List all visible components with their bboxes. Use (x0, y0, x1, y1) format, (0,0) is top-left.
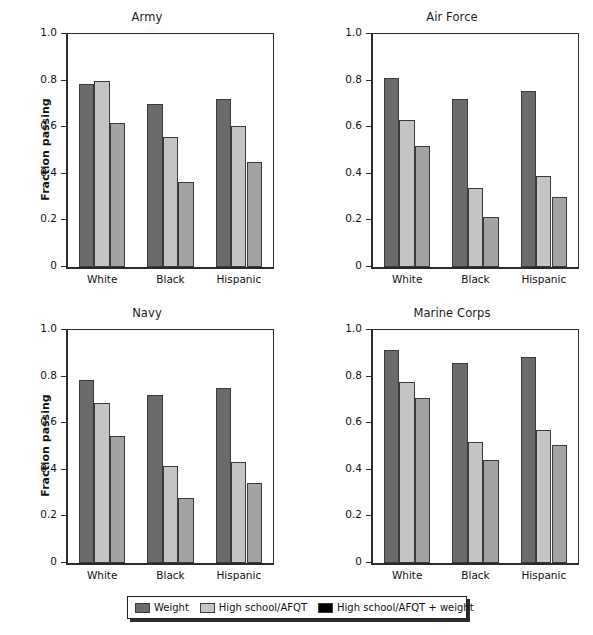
bar (178, 182, 193, 267)
y-axis-tick: 0.6 (366, 126, 373, 127)
bar-group-bars (205, 34, 273, 267)
legend-item: High school/AFQT + weight (318, 602, 474, 613)
bar-group-bars (441, 34, 509, 267)
y-axis-tick-label: 0.4 (345, 166, 362, 178)
y-axis-tick: 0 (366, 266, 373, 267)
bar (483, 460, 498, 563)
panel-air-force: Air Force 00.20.40.60.81.0WhiteBlackHisp… (297, 0, 593, 292)
y-axis-tick-label: 0.8 (345, 369, 362, 381)
x-axis-category-label: White (373, 569, 441, 581)
bar (452, 363, 467, 563)
bar-group: Black (136, 330, 204, 563)
y-axis-tick-label: 1.0 (40, 322, 57, 334)
y-axis-tick: 0.4 (61, 173, 68, 174)
bar-group: White (373, 34, 441, 267)
bar-group-bars (136, 330, 204, 563)
bar (247, 162, 262, 267)
bar (552, 197, 567, 267)
bar-group: White (68, 34, 136, 267)
x-axis-category-label: Hispanic (205, 273, 273, 285)
x-axis-category-label: Black (441, 569, 509, 581)
y-axis-tick-label: 0.6 (40, 415, 57, 427)
y-axis-tick: 0.6 (61, 422, 68, 423)
y-axis-tick-label: 0.4 (40, 166, 57, 178)
legend-label: Weight (154, 602, 189, 613)
x-axis-category-label: Black (441, 273, 509, 285)
bar (94, 403, 109, 563)
bar-group: White (373, 330, 441, 563)
y-axis-tick: 0 (61, 562, 68, 563)
bar (110, 123, 125, 267)
bar (231, 462, 246, 563)
bar-group: Hispanic (205, 34, 273, 267)
y-axis-tick: 0.4 (61, 469, 68, 470)
bar (247, 483, 262, 563)
bar-group-bars (510, 34, 578, 267)
figure: Army Fraction passing 00.20.40.60.81.0Wh… (0, 0, 593, 635)
panel-title: Marine Corps (327, 306, 577, 320)
x-axis-category-label: White (68, 569, 136, 581)
bar (216, 99, 231, 267)
y-axis-tick: 1.0 (61, 33, 68, 34)
bar (79, 380, 94, 563)
bar (94, 81, 109, 267)
y-axis-tick: 0.8 (61, 376, 68, 377)
bar-group-bars (373, 34, 441, 267)
bar (536, 176, 551, 267)
y-axis-title-wrap: Fraction passing (14, 329, 28, 564)
bar (483, 217, 498, 267)
bar-group: White (68, 330, 136, 563)
bars-container: 00.20.40.60.81.0WhiteBlackHispanic (68, 34, 273, 267)
panel-title: Air Force (327, 10, 577, 24)
bar (178, 498, 193, 563)
bar (536, 430, 551, 563)
y-axis-tick: 0.8 (366, 80, 373, 81)
y-axis-tick-label: 0.6 (40, 119, 57, 131)
panel-army: Army Fraction passing 00.20.40.60.81.0Wh… (0, 0, 296, 292)
legend-label: High school/AFQT + weight (337, 602, 474, 613)
y-axis-title: Fraction passing (39, 74, 52, 224)
y-axis-tick: 0.4 (366, 173, 373, 174)
y-axis-tick: 0.6 (61, 126, 68, 127)
bar-group-bars (205, 330, 273, 563)
bars-container: 00.20.40.60.81.0WhiteBlackHispanic (373, 330, 578, 563)
y-axis-tick-label: 0.2 (40, 212, 57, 224)
x-axis-category-label: Black (136, 569, 204, 581)
y-axis-tick-label: 0.6 (345, 415, 362, 427)
bar (468, 188, 483, 267)
bar (552, 445, 567, 563)
bar-group-bars (441, 330, 509, 563)
y-axis-tick-label: 0 (355, 259, 362, 271)
plot-area: 00.20.40.60.81.0WhiteBlackHispanic (371, 33, 579, 269)
bars-container: 00.20.40.60.81.0WhiteBlackHispanic (373, 34, 578, 267)
bar (147, 395, 162, 563)
y-axis-tick-label: 0 (50, 259, 57, 271)
bars-container: 00.20.40.60.81.0WhiteBlackHispanic (68, 330, 273, 563)
y-axis-tick-label: 0.6 (345, 119, 362, 131)
bar (110, 436, 125, 563)
x-axis-category-label: Black (136, 273, 204, 285)
x-axis-category-label: Hispanic (205, 569, 273, 581)
bar (452, 99, 467, 267)
x-axis-category-label: Hispanic (510, 569, 578, 581)
legend-swatch-icon (135, 603, 150, 613)
y-axis-tick: 0.6 (366, 422, 373, 423)
bar-group: Black (441, 34, 509, 267)
bar-group: Black (441, 330, 509, 563)
bar-group: Hispanic (205, 330, 273, 563)
bar-group-bars (373, 330, 441, 563)
y-axis-tick-label: 1.0 (40, 26, 57, 38)
bar (521, 357, 536, 563)
y-axis-tick-label: 0.2 (345, 508, 362, 520)
bar-group: Black (136, 34, 204, 267)
bar (384, 350, 399, 563)
bar (384, 78, 399, 267)
y-axis-tick: 1.0 (366, 33, 373, 34)
y-axis-tick-label: 0.8 (345, 73, 362, 85)
bar (521, 91, 536, 267)
y-axis-tick-label: 0 (50, 555, 57, 567)
bar-group-bars (68, 330, 136, 563)
y-axis-tick-label: 0 (355, 555, 362, 567)
y-axis-tick: 0.2 (61, 515, 68, 516)
y-axis-tick-label: 0.4 (40, 462, 57, 474)
